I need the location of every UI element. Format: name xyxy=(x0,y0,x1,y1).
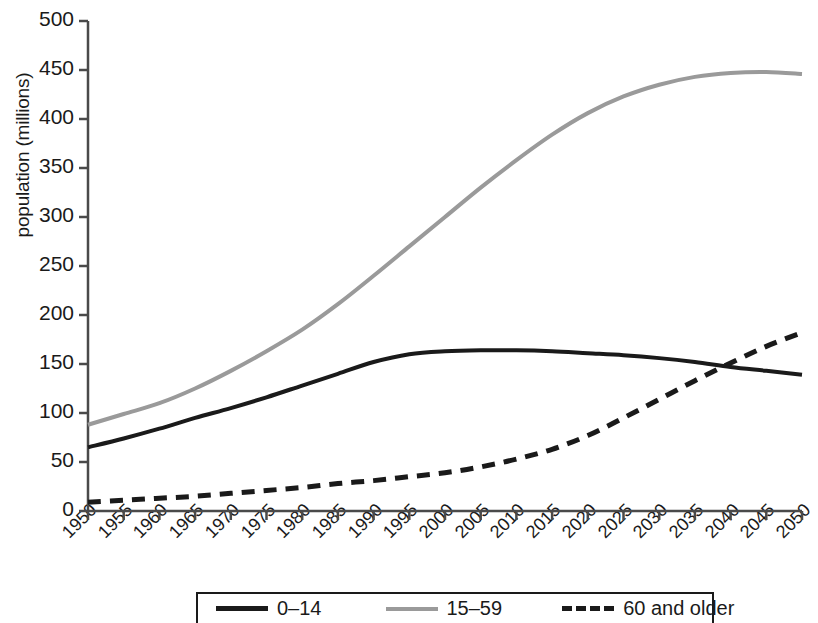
y-axis-ticks xyxy=(79,21,88,511)
series-line-15-59 xyxy=(88,72,802,425)
plot-area xyxy=(0,0,818,623)
axis-lines xyxy=(88,21,802,511)
legend-line-icon-60-and-older xyxy=(562,606,614,611)
data-series xyxy=(88,72,802,502)
legend-entry-0-14: 0–14 xyxy=(216,597,322,620)
legend-line-icon-15-59 xyxy=(386,607,438,611)
population-projection-chart: population (millions) 050100150200250300… xyxy=(0,0,818,623)
legend-entry-60-and-older: 60 and older xyxy=(562,597,734,620)
legend-line-icon-0-14 xyxy=(216,606,268,611)
legend-label-15-59: 15–59 xyxy=(447,597,503,620)
legend: 0–14 15–59 60 and older xyxy=(196,592,714,623)
legend-label-0-14: 0–14 xyxy=(277,597,322,620)
series-line-0-14 xyxy=(88,350,802,447)
legend-label-60-and-older: 60 and older xyxy=(623,597,734,620)
legend-entry-15-59: 15–59 xyxy=(386,597,503,620)
x-axis-ticks xyxy=(88,511,802,520)
